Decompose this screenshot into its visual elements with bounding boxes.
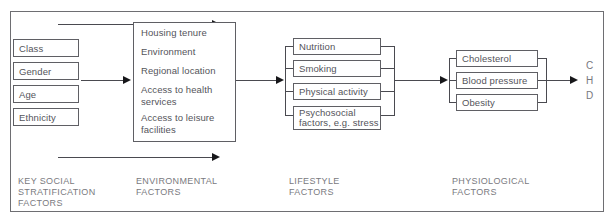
arrow-environmental-to-lifestyle-head <box>276 76 284 84</box>
social-factor-label: Age <box>19 89 36 100</box>
lifestyle-bracket-left-stub-smoking <box>285 68 293 69</box>
environmental-factor-regional-location: Regional location <box>141 65 216 77</box>
bypass-arrow-bottom-line <box>58 157 214 158</box>
arrow-lifestyle-to-physiological-line <box>394 80 442 81</box>
stage-caption-key-social-stratification-factors: KEY SOCIAL STRATIFICATION FACTORS <box>18 176 96 209</box>
lifestyle-factor-box-nutrition[interactable]: Nutrition <box>293 38 381 55</box>
social-factor-label: Ethnicity <box>19 112 56 123</box>
arrow-lifestyle-to-physiological-head <box>440 76 448 84</box>
environmental-factor-housing-tenure: Housing tenure <box>141 27 207 39</box>
bypass-arrow-bottom-head <box>212 153 220 161</box>
lifestyle-bracket-right-stub-nutrition <box>381 46 395 47</box>
outcome-letter-h: H <box>586 75 593 86</box>
physiological-factor-label: Blood pressure <box>462 75 527 86</box>
physiological-factor-box-obesity[interactable]: Obesity <box>456 94 538 111</box>
physiological-bracket-right-stub-obesity <box>538 102 547 103</box>
outcome-letter-c: C <box>586 60 593 71</box>
physiological-factor-box-blood-pressure[interactable]: Blood pressure <box>456 72 538 89</box>
social-factor-box-ethnicity[interactable]: Ethnicity <box>13 108 79 126</box>
social-factor-box-age[interactable]: Age <box>13 85 79 103</box>
diagram-canvas: Class Gender Age Ethnicity Housing tenur… <box>0 0 614 224</box>
physiological-bracket-left-stub-obesity <box>449 102 456 103</box>
physiological-bracket-right-stub-cholesterol <box>538 58 547 59</box>
social-factor-label: Class <box>19 43 43 54</box>
lifestyle-factor-label: Physical activity <box>299 86 368 97</box>
lifestyle-bracket-right-stub-psychosocial <box>381 115 395 116</box>
outcome-letter-d: D <box>586 90 593 101</box>
arrow-social-to-environmental-head <box>123 76 131 84</box>
lifestyle-factor-label: Smoking <box>299 63 337 74</box>
lifestyle-bracket-left-stub-nutrition <box>285 46 293 47</box>
lifestyle-factor-box-physical-activity[interactable]: Physical activity <box>293 83 381 100</box>
physiological-factor-box-cholesterol[interactable]: Cholesterol <box>456 50 538 67</box>
stage-caption-lifestyle-factors: LIFESTYLE FACTORS <box>289 176 340 198</box>
arrow-environmental-to-lifestyle-line <box>236 80 278 81</box>
arrow-physiological-to-outcome-head <box>570 76 578 84</box>
lifestyle-factor-box-smoking[interactable]: Smoking <box>293 60 381 77</box>
lifestyle-factor-box-psychosocial[interactable]: Psychosocial factors, e.g. stress <box>293 106 381 130</box>
stage-caption-environmental-factors: ENVIRONMENTAL FACTORS <box>136 176 217 198</box>
lifestyle-bracket-left-stub-physical-activity <box>285 91 293 92</box>
social-factor-box-gender[interactable]: Gender <box>13 62 79 80</box>
environmental-factor-environment: Environment <box>141 46 195 58</box>
physiological-factor-label: Cholesterol <box>462 53 511 64</box>
lifestyle-bracket-right-stub-physical-activity <box>381 91 395 92</box>
lifestyle-bracket-left-spine <box>285 46 286 115</box>
lifestyle-bracket-right-stub-smoking <box>381 68 395 69</box>
social-factor-label: Gender <box>19 66 51 77</box>
social-factor-box-class[interactable]: Class <box>13 39 79 57</box>
physiological-factor-label: Obesity <box>462 97 495 108</box>
lifestyle-factor-label: Psychosocial factors, e.g. stress <box>299 108 379 129</box>
environmental-factor-access-to-health-services: Access to health services <box>141 84 212 107</box>
physiological-bracket-left-stub-cholesterol <box>449 58 456 59</box>
arrow-social-to-environmental-line <box>81 80 125 81</box>
lifestyle-factor-label: Nutrition <box>299 41 335 52</box>
stage-caption-physiological-factors: PHYSIOLOGICAL FACTORS <box>452 176 530 198</box>
lifestyle-bracket-left-stub-psychosocial <box>285 115 293 116</box>
arrow-physiological-to-outcome-line <box>546 80 572 81</box>
physiological-bracket-left-stub-blood-pressure <box>449 80 456 81</box>
environmental-factor-access-to-leisure-facilities: Access to leisure facilities <box>141 112 215 135</box>
